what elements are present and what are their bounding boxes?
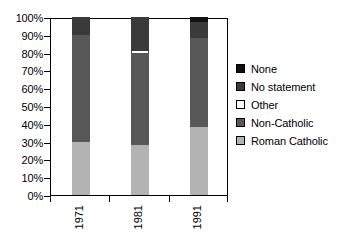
legend-item-none[interactable]: None (236, 60, 355, 77)
legend-item-non-catholic[interactable]: Non-Catholic (236, 114, 355, 131)
bar-group-1991[interactable] (190, 19, 208, 195)
x-tick-mark (50, 196, 51, 202)
bar-segment-none[interactable] (190, 17, 208, 22)
x-tick-label-1971: 1971 (74, 205, 85, 229)
legend-label: Other (251, 99, 278, 111)
bar-stack (131, 19, 149, 195)
legend-label: No statement (251, 81, 315, 93)
x-tick-label-1991: 1991 (192, 205, 203, 229)
legend-item-other[interactable]: Other (236, 96, 355, 113)
bar-stack (72, 19, 90, 195)
legend-swatch-icon (236, 64, 245, 73)
legend-swatch-icon (236, 118, 245, 127)
legend-swatch-icon (236, 136, 245, 145)
bar-segment-roman-catholic[interactable] (131, 145, 149, 195)
bar-segment-no-statement[interactable] (72, 17, 90, 35)
y-tick-label: 0% (28, 191, 44, 202)
x-axis-labels: 197119811991 (50, 203, 228, 249)
chart-legend: NoneNo statementOtherNon-CatholicRoman C… (236, 60, 355, 150)
y-tick-label: 90% (22, 30, 43, 41)
bar-segment-non-catholic[interactable] (72, 35, 90, 142)
y-axis-labels: 0%10%20%30%40%50%60%70%80%90%100% (0, 10, 46, 204)
stacked-bar-chart: 0%10%20%30%40%50%60%70%80%90%100% 197119… (0, 0, 355, 249)
bar-segment-non-catholic[interactable] (131, 53, 149, 146)
bar-group-1981[interactable] (131, 19, 149, 195)
y-tick-label: 70% (22, 66, 43, 77)
bar-segment-non-catholic[interactable] (190, 38, 208, 127)
y-tick-label: 80% (22, 48, 43, 59)
y-tick-label: 60% (22, 84, 43, 95)
legend-label: Non-Catholic (251, 117, 313, 129)
y-tick-label: 20% (22, 155, 43, 166)
y-tick-label: 30% (22, 137, 43, 148)
bar-segment-no-statement[interactable] (190, 22, 208, 38)
x-tick-label-1981: 1981 (133, 205, 144, 229)
legend-label: None (251, 63, 277, 75)
legend-swatch-icon (236, 100, 245, 109)
x-tick-mark (227, 196, 228, 202)
y-tick-label: 10% (22, 173, 43, 184)
bar-segment-roman-catholic[interactable] (72, 142, 90, 195)
x-tick-mark (109, 196, 110, 202)
plot-area (50, 18, 228, 196)
y-tick-label: 40% (22, 119, 43, 130)
plot-inner (51, 19, 227, 195)
bar-segment-no-statement[interactable] (131, 17, 149, 51)
bar-segment-other[interactable] (131, 51, 149, 53)
y-tick-label: 50% (22, 102, 43, 113)
bar-group-1971[interactable] (72, 19, 90, 195)
legend-item-roman-catholic[interactable]: Roman Catholic (236, 132, 355, 149)
legend-label: Roman Catholic (251, 135, 328, 147)
bar-stack (190, 19, 208, 195)
legend-item-no-statement[interactable]: No statement (236, 78, 355, 95)
x-tick-mark (169, 196, 170, 202)
bar-segment-roman-catholic[interactable] (190, 127, 208, 195)
x-axis-ticks (50, 196, 228, 203)
y-tick-label: 100% (16, 13, 43, 24)
legend-swatch-icon (236, 82, 245, 91)
